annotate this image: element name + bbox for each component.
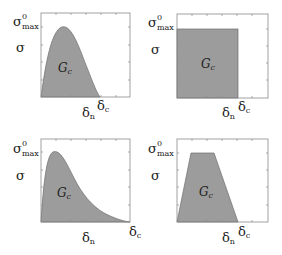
delta-c-label: δc — [129, 224, 142, 240]
sigma-axis-label: σ — [151, 42, 160, 57]
sigma-axis-label: σ — [151, 168, 160, 183]
delta-c-label: δc — [97, 98, 110, 114]
sigma-max-label: σ0max — [148, 139, 174, 158]
panel-bottom-right: σ0max σ Gc δc δn — [148, 139, 268, 246]
delta-n-label: δn — [82, 230, 95, 246]
delta-n-label: δn — [222, 105, 235, 121]
delta-n-label: δn — [82, 105, 95, 121]
panel-bottom-left: σ0max σ Gc δc δn — [13, 139, 142, 246]
sigma-max-label: σ0max — [148, 13, 174, 32]
traction-curve-smooth-hump — [41, 27, 100, 97]
sigma-max-label: σ0max — [13, 12, 39, 31]
panel-top-right: σ0max σ Gc δc δn — [148, 13, 268, 121]
delta-c-label: δc — [238, 99, 251, 115]
sigma-axis-label: σ — [16, 168, 25, 183]
sigma-axis-label: σ — [16, 40, 25, 55]
cohesive-law-figure: σ0max σ Gc δc δn σ0max σ Gc δc δn — [0, 0, 282, 255]
delta-n-label: δn — [222, 230, 235, 246]
sigma-max-label: σ0max — [13, 139, 39, 158]
traction-curve-exponential-decay — [41, 152, 130, 222]
panel-top-left: σ0max σ Gc δc δn — [13, 12, 130, 121]
delta-c-label: δc — [238, 224, 251, 240]
